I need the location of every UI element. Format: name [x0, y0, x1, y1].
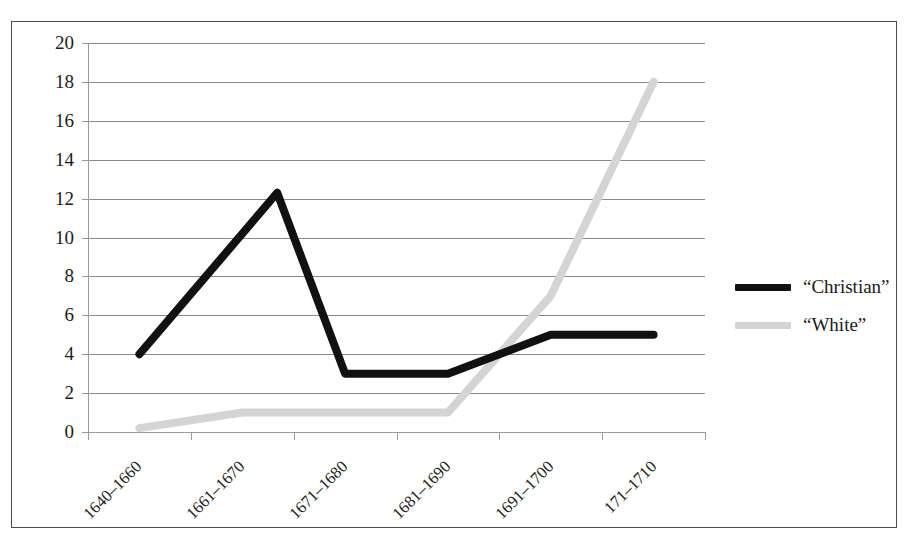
y-tick-label: 16 [28, 111, 74, 130]
y-axis-line [88, 43, 89, 432]
y-tick-label: 10 [28, 228, 74, 247]
gridline [88, 43, 705, 44]
y-tick-label: 2 [28, 383, 74, 402]
gridline [88, 160, 705, 161]
legend-swatch-christian [735, 284, 791, 291]
gridline [88, 315, 705, 316]
legend-label-christian: “Christian” [803, 276, 890, 298]
legend-swatch-white [735, 322, 791, 329]
x-tick [397, 432, 398, 440]
y-tick-label: 4 [28, 344, 74, 363]
x-tick [499, 432, 500, 440]
line-chart-figure: 02468101214161820 1640–16601661–16701671… [0, 0, 913, 560]
y-tick-label: 18 [28, 72, 74, 91]
y-tick-label: 20 [28, 33, 74, 52]
y-tick-label: 6 [28, 305, 74, 324]
y-tick-label: 0 [28, 422, 74, 441]
x-tick [88, 432, 89, 440]
gridline [88, 276, 705, 277]
gridline [88, 199, 705, 200]
gridline [88, 121, 705, 122]
gridline [88, 354, 705, 355]
legend-item-christian: “Christian” [735, 268, 895, 306]
gridline [88, 393, 705, 394]
legend-label-white: “White” [803, 314, 866, 336]
x-tick [191, 432, 192, 440]
chart-legend: “Christian” “White” [735, 268, 895, 344]
y-tick-label: 14 [28, 150, 74, 169]
y-tick-label: 8 [28, 266, 74, 285]
x-tick [705, 432, 706, 440]
y-tick-label: 12 [28, 189, 74, 208]
gridline [88, 82, 705, 83]
legend-item-white: “White” [735, 306, 895, 344]
x-tick [602, 432, 603, 440]
gridline [88, 238, 705, 239]
x-tick [294, 432, 295, 440]
